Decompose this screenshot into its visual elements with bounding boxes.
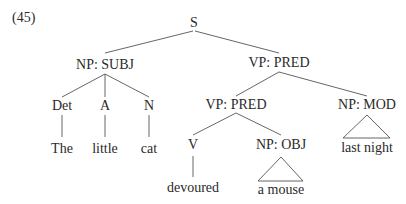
node-vp-pred-upper: VP: PRED [248, 55, 309, 70]
phrase-last-night: last night [341, 140, 393, 155]
phrase-a-mouse: a mouse [258, 182, 304, 197]
edge-subj-det [62, 74, 105, 97]
triangle-np-obj [258, 157, 303, 181]
node-a: A [100, 98, 111, 113]
node-v: V [188, 137, 198, 152]
node-det: Det [52, 98, 72, 113]
edge-innervp-obj [236, 113, 281, 135]
edge-s-subj [105, 31, 193, 53]
word-cat: cat [141, 141, 157, 156]
node-np-mod: NP: MOD [338, 97, 396, 112]
triangle-np-mod [343, 115, 390, 138]
node-s: S [190, 15, 198, 30]
example-number: (45) [12, 10, 36, 26]
edge-s-pred [195, 31, 279, 53]
node-vp-pred-lower: VP: PRED [205, 97, 266, 112]
edge-innervp-v [193, 113, 236, 135]
node-n: N [144, 98, 154, 113]
node-np-obj: NP: OBJ [256, 137, 307, 152]
edge-pred-innervp [236, 72, 279, 96]
word-little: little [92, 141, 118, 156]
edge-pred-mod [279, 72, 367, 96]
edge-subj-n [105, 74, 149, 97]
node-np-subj: NP: SUBJ [76, 57, 135, 72]
word-devoured: devoured [167, 180, 219, 195]
syntax-tree-diagram: (45) S NP: SUBJ Det A N The little cat V… [0, 0, 406, 204]
tree-svg: (45) S NP: SUBJ Det A N The little cat V… [0, 0, 406, 204]
word-the: The [51, 141, 73, 156]
